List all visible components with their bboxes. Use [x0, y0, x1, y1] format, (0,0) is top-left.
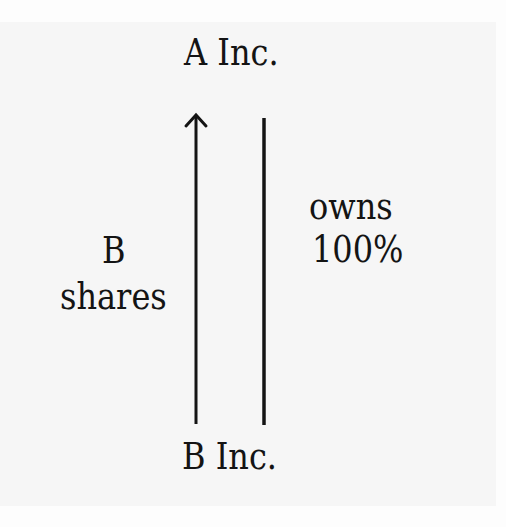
diagram-edges — [0, 0, 506, 527]
left-edge-arrow — [186, 115, 206, 424]
